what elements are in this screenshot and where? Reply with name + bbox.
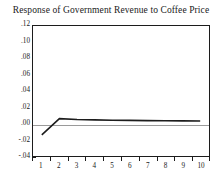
x-axis-labels: 12345678910 (32, 162, 210, 174)
y-tick-label: .12 (10, 21, 30, 28)
series-line (42, 119, 200, 135)
y-axis-labels: .12.10.08.06.04.02.00-.02-.04 (8, 25, 30, 157)
x-tick-label: 2 (51, 162, 67, 170)
x-tick-label: 3 (69, 162, 85, 170)
x-tick-mark (121, 157, 122, 161)
x-tick-mark (174, 157, 175, 161)
y-tick-label: .10 (10, 38, 30, 45)
x-tick-mark (50, 157, 51, 161)
x-tick-label: 10 (193, 162, 209, 170)
chart-title: Response of Government Revenue to Coffee… (0, 5, 222, 15)
y-tick-label: .04 (10, 87, 30, 94)
y-tick-label: .02 (10, 104, 30, 111)
x-tick-label: 5 (104, 162, 120, 170)
x-tick-mark (32, 157, 33, 161)
x-tick-label: 4 (86, 162, 102, 170)
y-tick-label: .08 (10, 54, 30, 61)
x-tick-mark (209, 157, 210, 161)
x-tick-mark (157, 157, 158, 161)
x-tick-mark (192, 157, 193, 161)
plot-area (32, 25, 210, 157)
impulse-response-series (33, 26, 209, 156)
chart-screenshot: Response of Government Revenue to Coffee… (0, 0, 222, 180)
y-tick-label: .00 (10, 120, 30, 127)
x-tick-label: 1 (33, 162, 49, 170)
y-tick-label: .06 (10, 71, 30, 78)
x-tick-mark (103, 157, 104, 161)
x-tick-mark (68, 157, 69, 161)
x-tick-mark (139, 157, 140, 161)
x-tick-mark (85, 157, 86, 161)
x-tick-label: 9 (175, 162, 191, 170)
y-tick-label: -.04 (10, 153, 30, 160)
x-tick-label: 8 (158, 162, 174, 170)
y-tick-label: -.02 (10, 137, 30, 144)
x-tick-label: 6 (122, 162, 138, 170)
x-tick-label: 7 (140, 162, 156, 170)
